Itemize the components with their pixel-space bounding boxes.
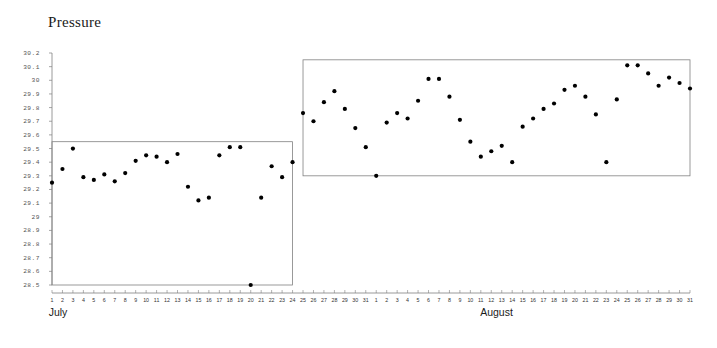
x-tick-label: 27 xyxy=(321,297,327,303)
x-tick-label: 28 xyxy=(331,297,337,303)
x-tick-label: 2 xyxy=(385,297,388,303)
x-tick-label: 17 xyxy=(541,297,547,303)
x-tick-label: 2 xyxy=(61,297,64,303)
x-tick-label: 14 xyxy=(185,297,191,303)
x-tick-label: 13 xyxy=(499,297,505,303)
x-tick-label: 31 xyxy=(363,297,369,303)
x-tick-label: 16 xyxy=(206,297,212,303)
x-tick-label: 21 xyxy=(582,297,588,303)
x-tick-label: 25 xyxy=(300,297,306,303)
x-tick-label: 9 xyxy=(134,297,137,303)
x-tick-label: 16 xyxy=(530,297,536,303)
x-tick-label: 8 xyxy=(124,297,127,303)
x-tick-label: 26 xyxy=(311,297,317,303)
x-tick-label: 6 xyxy=(103,297,106,303)
x-axis-group-label: August xyxy=(480,306,513,318)
x-tick-label: 25 xyxy=(624,297,630,303)
x-tick-label: 23 xyxy=(603,297,609,303)
x-tick-label: 24 xyxy=(614,297,620,303)
x-tick-label: 22 xyxy=(593,297,599,303)
x-tick-label: 19 xyxy=(237,297,243,303)
x-tick-label: 29 xyxy=(342,297,348,303)
x-tick-label: 12 xyxy=(488,297,494,303)
x-tick-label: 15 xyxy=(195,297,201,303)
x-tick-label: 7 xyxy=(437,297,440,303)
x-axis-tick-labels: 1234567891011121314151617181920212223242… xyxy=(0,0,717,348)
x-tick-label: 20 xyxy=(248,297,254,303)
x-tick-label: 3 xyxy=(396,297,399,303)
x-tick-label: 31 xyxy=(687,297,693,303)
x-tick-label: 19 xyxy=(562,297,568,303)
x-tick-label: 5 xyxy=(92,297,95,303)
x-tick-label: 5 xyxy=(417,297,420,303)
x-axis-group-label: July xyxy=(49,306,68,318)
x-tick-label: 30 xyxy=(352,297,358,303)
x-tick-label: 10 xyxy=(143,297,149,303)
x-tick-label: 26 xyxy=(635,297,641,303)
x-tick-label: 3 xyxy=(71,297,74,303)
x-tick-label: 20 xyxy=(572,297,578,303)
x-tick-label: 22 xyxy=(269,297,275,303)
x-tick-label: 24 xyxy=(290,297,296,303)
x-tick-label: 7 xyxy=(113,297,116,303)
x-tick-label: 10 xyxy=(467,297,473,303)
x-tick-label: 8 xyxy=(448,297,451,303)
x-tick-label: 29 xyxy=(666,297,672,303)
x-tick-label: 4 xyxy=(82,297,85,303)
x-tick-label: 9 xyxy=(458,297,461,303)
x-tick-label: 12 xyxy=(164,297,170,303)
x-tick-label: 1 xyxy=(51,297,54,303)
x-tick-label: 13 xyxy=(175,297,181,303)
x-tick-label: 11 xyxy=(154,297,160,303)
x-tick-label: 23 xyxy=(279,297,285,303)
x-tick-label: 30 xyxy=(677,297,683,303)
x-tick-label: 21 xyxy=(258,297,264,303)
x-tick-label: 14 xyxy=(509,297,515,303)
x-tick-label: 27 xyxy=(645,297,651,303)
x-tick-label: 28 xyxy=(656,297,662,303)
x-tick-label: 15 xyxy=(520,297,526,303)
x-tick-label: 18 xyxy=(227,297,233,303)
x-tick-label: 18 xyxy=(551,297,557,303)
x-tick-label: 17 xyxy=(216,297,222,303)
x-tick-label: 11 xyxy=(478,297,484,303)
x-tick-label: 4 xyxy=(406,297,409,303)
pressure-chart: Pressure 30.230.13029.929.829.729.629.52… xyxy=(0,0,717,348)
x-tick-label: 1 xyxy=(375,297,378,303)
x-tick-label: 6 xyxy=(427,297,430,303)
